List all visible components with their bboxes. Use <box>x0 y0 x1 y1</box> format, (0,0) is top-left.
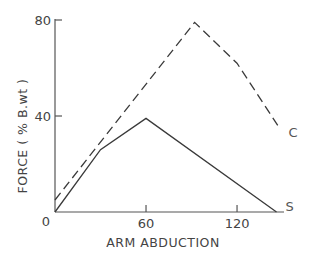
x-tick-label: 120 <box>225 216 250 231</box>
x-axis-title: ARM ABDUCTION <box>106 235 220 250</box>
x-ticks: 60120 <box>138 205 250 231</box>
y-axis-title: FORCE ( % B.wt ) <box>15 79 30 194</box>
line-chart: 04080 60120 CS ARM ABDUCTION FORCE ( % B… <box>0 0 311 258</box>
series-line-s <box>55 118 277 212</box>
axes <box>55 19 284 212</box>
y-tick-label: 0 <box>42 214 50 229</box>
series-lines <box>55 22 280 212</box>
x-tick-label: 60 <box>138 216 155 231</box>
series-labels: CS <box>285 125 297 214</box>
series-label-s: S <box>285 199 293 214</box>
y-tick-label: 40 <box>34 109 51 124</box>
y-tick-label: 80 <box>34 13 51 28</box>
series-line-c <box>55 22 280 200</box>
series-label-c: C <box>289 125 298 140</box>
